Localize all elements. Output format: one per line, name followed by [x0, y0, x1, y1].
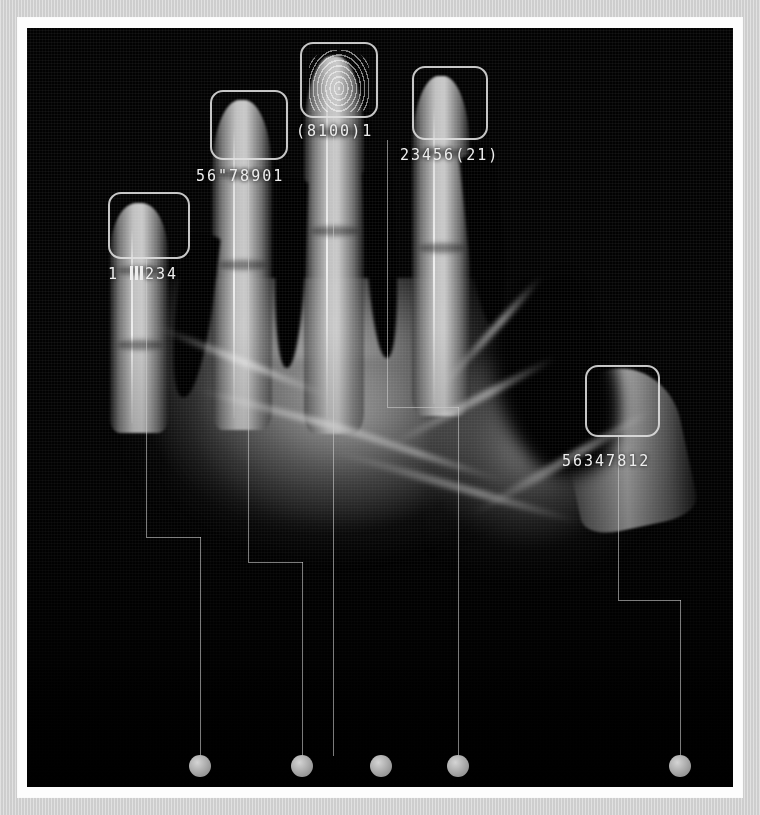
terminal-node-4[interactable] — [447, 755, 469, 777]
fingerprint-ridge-pattern — [309, 50, 369, 112]
annotation-overlay: 1 23456"78901(8100)123456(21)56347812 — [27, 28, 733, 787]
leader-line-1-seg-1 — [146, 259, 147, 537]
capture-box-index-finger[interactable] — [108, 192, 190, 259]
leader-line-4-seg-3 — [458, 407, 459, 756]
leader-line-2-seg-3 — [302, 562, 303, 756]
leader-line-4-seg-1 — [387, 140, 388, 407]
capture-label-ring-finger: 23456(21) — [400, 146, 499, 164]
leader-line-2-seg-2 — [248, 562, 303, 563]
capture-label-index-finger: 1 234 — [108, 265, 178, 284]
capture-box-ring-finger[interactable] — [412, 66, 488, 140]
capture-label-thumb: 56347812 — [562, 452, 650, 470]
capture-label-middle-finger: (8100)1 — [296, 122, 373, 140]
terminal-node-1[interactable] — [189, 755, 211, 777]
leader-line-5-seg-3 — [680, 600, 681, 756]
capture-label-middle-finger-left: 56"78901 — [196, 167, 284, 185]
terminal-node-2[interactable] — [291, 755, 313, 777]
capture-label-prefix: 1 — [108, 265, 130, 283]
capture-box-middle-finger-left[interactable] — [210, 90, 288, 160]
terminal-node-5[interactable] — [669, 755, 691, 777]
leader-line-2-seg-1 — [248, 160, 249, 562]
capture-label-suffix: 234 — [145, 265, 178, 283]
leader-line-3-seg-1 — [333, 118, 334, 756]
capture-box-thumb[interactable] — [585, 365, 660, 437]
leader-line-5-seg-2 — [618, 600, 681, 601]
barcode-strokes-icon — [130, 266, 145, 284]
scan-frame: 1 23456"78901(8100)123456(21)56347812 — [0, 0, 760, 815]
leader-line-1-seg-3 — [200, 537, 201, 756]
terminal-node-3[interactable] — [370, 755, 392, 777]
xray-viewport: 1 23456"78901(8100)123456(21)56347812 — [27, 28, 733, 787]
leader-line-1-seg-2 — [146, 537, 201, 538]
leader-line-4-seg-2 — [387, 407, 459, 408]
